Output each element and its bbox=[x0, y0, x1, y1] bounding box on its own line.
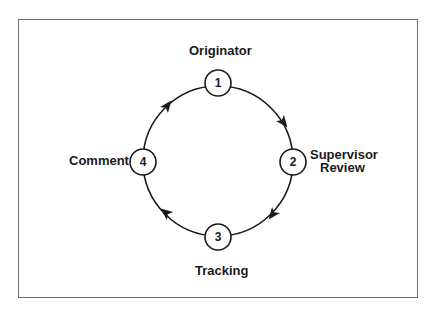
node-3-number: 3 bbox=[205, 224, 231, 250]
node-4-label: Comment bbox=[69, 154, 129, 167]
node-1-label: Originator bbox=[189, 44, 252, 57]
node-1-number: 1 bbox=[205, 70, 231, 96]
node-2-number: 2 bbox=[280, 149, 306, 175]
node-2-label-line2: Review bbox=[320, 161, 365, 174]
node-3-label: Tracking bbox=[195, 264, 248, 277]
arrow-3-to-4-icon bbox=[157, 205, 173, 220]
node-4-number: 4 bbox=[130, 149, 156, 175]
arrow-2-to-3-icon bbox=[265, 207, 280, 223]
